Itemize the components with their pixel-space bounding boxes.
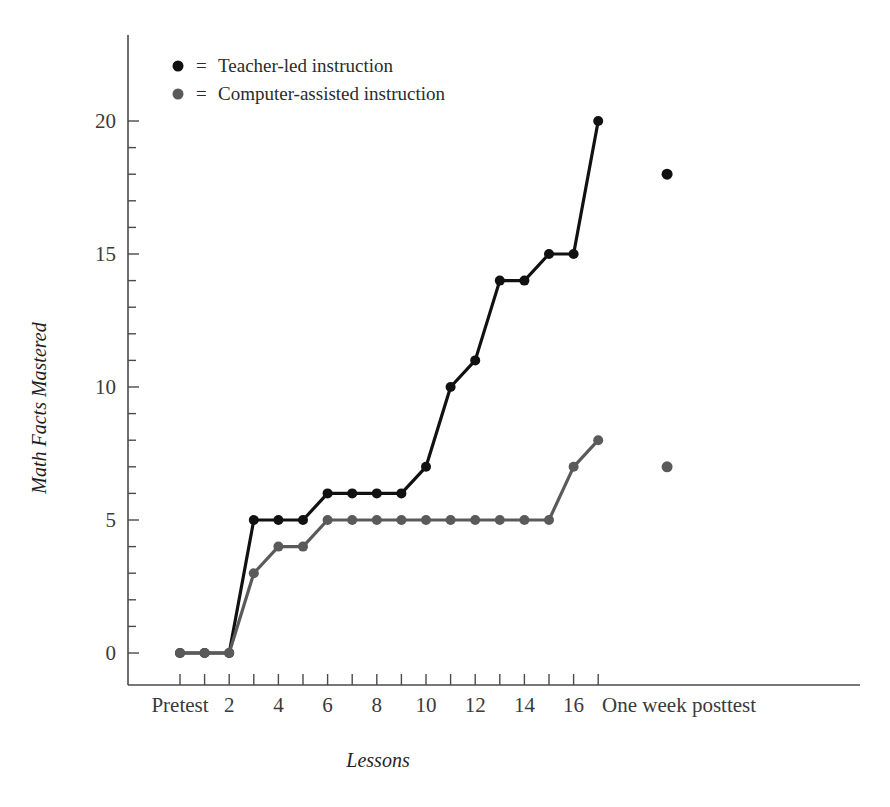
x-axis-title: Lessons <box>345 749 410 771</box>
data-point <box>446 382 456 392</box>
data-point <box>273 542 283 552</box>
x-tick-label: Pretest <box>151 693 208 717</box>
data-point <box>396 488 406 498</box>
posttest-points-group <box>662 169 673 473</box>
legend-label-0: Teacher-led instruction <box>218 55 394 76</box>
x-tick-label: 12 <box>465 693 486 717</box>
data-point <box>347 488 357 498</box>
data-point <box>569 462 579 472</box>
series-line-1 <box>180 440 598 653</box>
data-point <box>298 515 308 525</box>
data-point <box>273 515 283 525</box>
data-point <box>569 249 579 259</box>
data-point <box>249 568 259 578</box>
legend-marker-0 <box>173 61 184 72</box>
data-point <box>470 515 480 525</box>
data-series-group <box>175 116 603 658</box>
data-point <box>446 515 456 525</box>
y-tick-label: 10 <box>95 375 116 399</box>
y-axis-title: Math Facts Mastered <box>28 321 50 494</box>
data-point <box>372 515 382 525</box>
chart-legend: =Teacher-led instruction=Computer-assist… <box>173 55 446 104</box>
data-point <box>544 515 554 525</box>
posttest-point-1 <box>662 461 673 472</box>
data-point <box>421 462 431 472</box>
data-point <box>372 488 382 498</box>
data-point <box>200 648 210 658</box>
data-point <box>323 515 333 525</box>
legend-marker-1 <box>173 89 184 100</box>
y-axis: 05101520 <box>95 35 139 685</box>
data-point <box>175 648 185 658</box>
y-tick-label: 15 <box>95 242 116 266</box>
data-point <box>323 488 333 498</box>
data-point <box>544 249 554 259</box>
data-point <box>249 515 259 525</box>
data-point <box>593 116 603 126</box>
x-tick-label: 14 <box>514 693 536 717</box>
chart-figure: 05101520 Pretest246810121416One week pos… <box>0 0 890 807</box>
x-tick-label: 16 <box>563 693 584 717</box>
data-point <box>421 515 431 525</box>
axis-titles-group: LessonsMath Facts Mastered <box>28 321 410 771</box>
legend-equals-0: = <box>196 55 207 76</box>
x-tick-label: 4 <box>273 693 284 717</box>
data-point <box>519 276 529 286</box>
x-tick-label: 6 <box>322 693 333 717</box>
legend-label-1: Computer-assisted instruction <box>218 83 446 104</box>
y-tick-label: 0 <box>106 641 117 665</box>
legend-equals-1: = <box>196 83 207 104</box>
data-point <box>396 515 406 525</box>
data-point <box>470 355 480 365</box>
posttest-axis-label: One week posttest <box>602 693 756 717</box>
series-line-0 <box>180 121 598 653</box>
data-point <box>593 435 603 445</box>
x-tick-label: 2 <box>224 693 235 717</box>
posttest-point-0 <box>662 169 673 180</box>
data-point <box>224 648 234 658</box>
data-point <box>298 542 308 552</box>
y-tick-label: 5 <box>106 508 117 532</box>
y-tick-label: 20 <box>95 109 116 133</box>
data-point <box>519 515 529 525</box>
x-axis: Pretest246810121416One week posttest <box>128 674 860 717</box>
x-tick-label: 10 <box>416 693 437 717</box>
x-tick-label: 8 <box>372 693 383 717</box>
data-point <box>495 276 505 286</box>
data-point <box>347 515 357 525</box>
data-point <box>495 515 505 525</box>
line-chart-canvas: 05101520 Pretest246810121416One week pos… <box>0 0 890 807</box>
